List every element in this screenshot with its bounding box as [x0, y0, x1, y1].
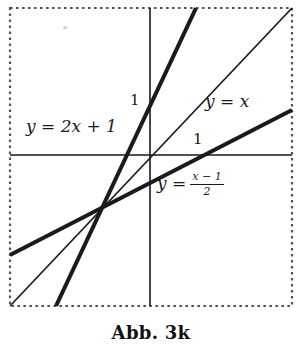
fraction-denominator: 2	[201, 186, 212, 198]
figure-root: 1 1 y = 2x + 1 y = x y = x − 1 2 Abb. 3k	[0, 0, 302, 355]
fraction-numerator: x − 1	[190, 171, 223, 183]
tick-label-x-1: 1	[193, 132, 203, 147]
series-label-y-equals-x: y = x	[205, 93, 249, 110]
plot-svg	[0, 0, 302, 312]
figure-caption: Abb. 3k	[0, 322, 302, 343]
plot-area: 1 1 y = 2x + 1 y = x y = x − 1 2	[0, 0, 302, 312]
series-label-y-equals-2x-plus-1: y = 2x + 1	[26, 118, 117, 135]
paper-speck-artifact	[63, 26, 67, 29]
fraction-stack: x − 1 2	[190, 171, 223, 198]
tick-label-y-1: 1	[130, 93, 140, 108]
series-label-y-equals-x-minus-1-over-2: y = x − 1 2	[157, 170, 224, 197]
fraction-label-lead: y =	[157, 175, 186, 192]
